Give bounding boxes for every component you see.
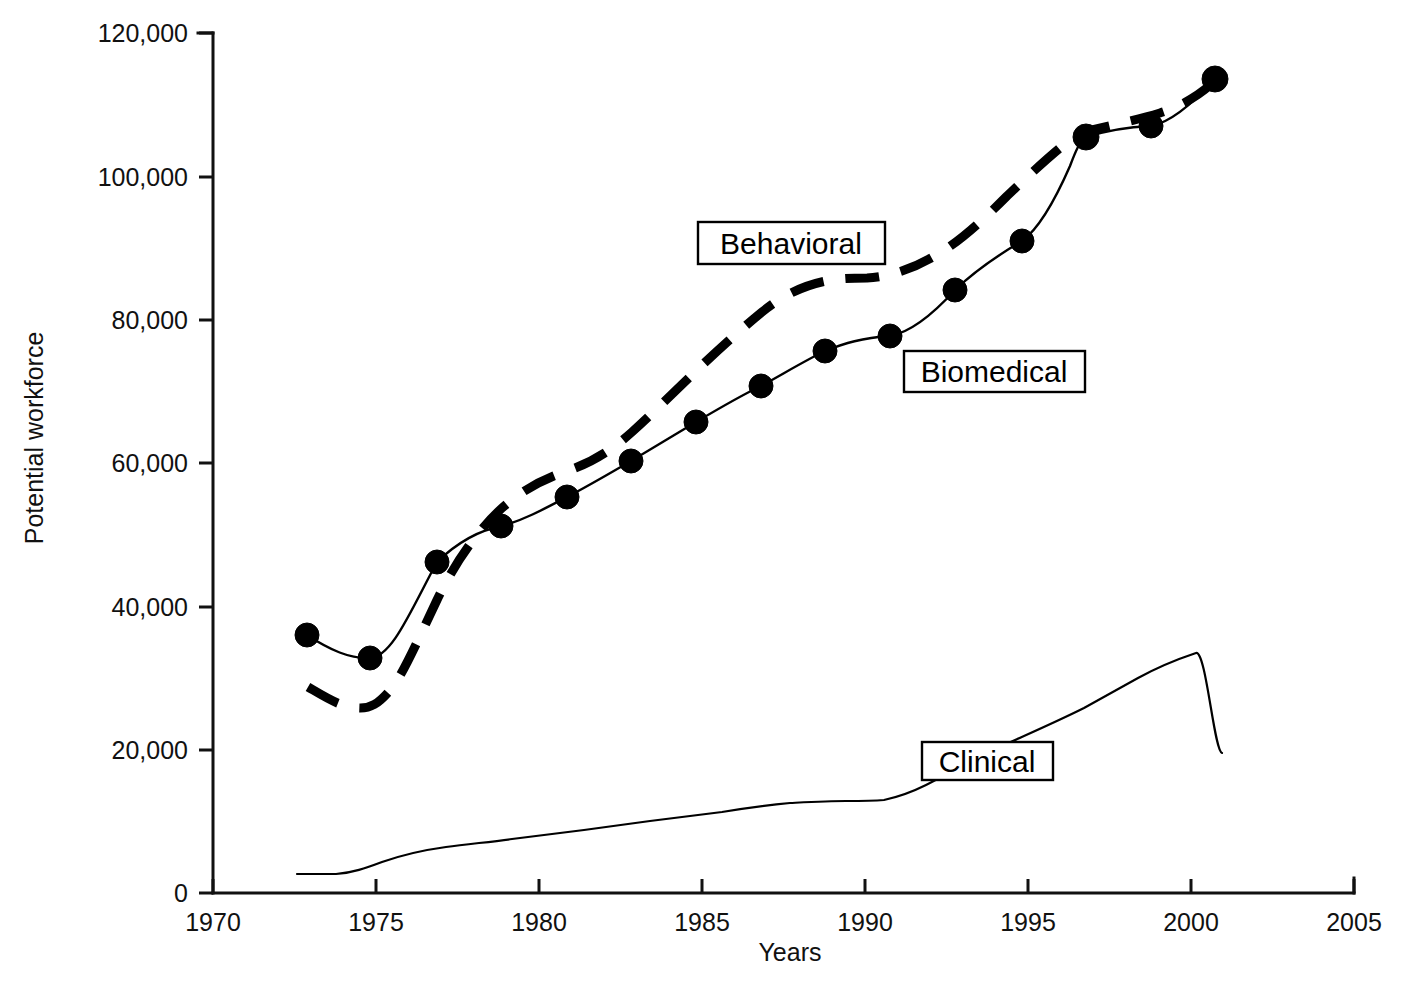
- x-tick-label-1990: 1990: [837, 908, 893, 936]
- x-tick-marks: [213, 879, 1354, 893]
- clinical-line: [297, 653, 1222, 874]
- data-point-marker: [1073, 124, 1099, 150]
- y-tick-label-20000: 20,000: [112, 736, 188, 764]
- data-point-marker: [1202, 66, 1228, 92]
- series-biomedical: [295, 66, 1228, 670]
- y-tick-marks: [199, 33, 213, 893]
- legend-behavioral[interactable]: Behavioral: [698, 222, 885, 264]
- x-tick-label-1995: 1995: [1000, 908, 1056, 936]
- line-chart-canvas: 120,000 100,000 80,000 60,000 40,000 20,…: [0, 0, 1405, 1001]
- y-tick-label-0: 0: [174, 879, 188, 907]
- legend-behavioral-label: Behavioral: [720, 227, 862, 260]
- data-point-marker: [943, 278, 967, 302]
- data-point-marker: [358, 646, 382, 670]
- x-tick-label-1985: 1985: [674, 908, 730, 936]
- y-tick-label-60000: 60,000: [112, 449, 188, 477]
- legend-biomedical-label: Biomedical: [921, 355, 1068, 388]
- data-point-marker: [684, 410, 708, 434]
- x-tick-label-2005: 2005: [1326, 908, 1382, 936]
- legend-clinical[interactable]: Clinical: [922, 742, 1053, 780]
- x-tick-label-1980: 1980: [511, 908, 567, 936]
- x-tick-label-1975: 1975: [348, 908, 404, 936]
- legend-clinical-label: Clinical: [939, 745, 1036, 778]
- data-point-marker: [1010, 229, 1034, 253]
- y-tick-label-40000: 40,000: [112, 593, 188, 621]
- x-tick-label-1970: 1970: [185, 908, 241, 936]
- y-tick-label-120000: 120,000: [98, 19, 188, 47]
- axis-lines: [198, 33, 1354, 893]
- y-axis-title: Potential workforce: [20, 332, 48, 545]
- x-tick-labels: 1970 1975 1980 1985 1990 1995 2000 2005: [185, 908, 1382, 936]
- data-point-marker: [619, 449, 643, 473]
- legend-biomedical[interactable]: Biomedical: [904, 351, 1085, 392]
- data-point-marker: [878, 324, 902, 348]
- data-point-marker: [1139, 114, 1163, 138]
- x-axis-title: Years: [758, 938, 821, 966]
- biomedical-markers: [295, 66, 1228, 670]
- y-tick-labels: 120,000 100,000 80,000 60,000 40,000 20,…: [98, 19, 188, 907]
- chart-figure: 120,000 100,000 80,000 60,000 40,000 20,…: [0, 0, 1405, 1001]
- data-point-marker: [489, 514, 513, 538]
- y-tick-label-100000: 100,000: [98, 163, 188, 191]
- data-point-marker: [295, 623, 319, 647]
- data-point-marker: [749, 374, 773, 398]
- x-tick-label-2000: 2000: [1163, 908, 1219, 936]
- series-clinical: [297, 653, 1222, 874]
- data-point-marker: [555, 485, 579, 509]
- data-point-marker: [425, 550, 449, 574]
- y-tick-label-80000: 80,000: [112, 306, 188, 334]
- data-point-marker: [813, 339, 837, 363]
